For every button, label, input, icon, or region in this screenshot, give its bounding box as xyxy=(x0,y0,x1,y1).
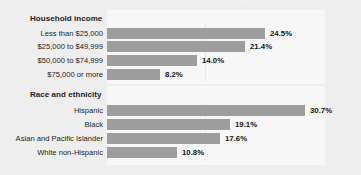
bar xyxy=(107,147,177,158)
bar xyxy=(107,105,305,116)
bar-row: $75,000 or more 8.2% xyxy=(0,69,361,80)
bar-row: Asian and Pacific Islander 17.6% xyxy=(0,133,361,144)
category-label: Less than $25,000 xyxy=(41,29,104,39)
bar xyxy=(107,119,230,130)
value-label: 17.6% xyxy=(225,134,247,144)
category-label: Black xyxy=(84,120,103,130)
bar xyxy=(107,28,265,39)
category-label: $50,000 to $74,999 xyxy=(38,56,103,66)
category-label: $25,000 to $49,999 xyxy=(38,42,103,52)
value-label: 30.7% xyxy=(310,106,332,116)
section-heading-household-income: Household income xyxy=(30,14,102,23)
value-label: 8.2% xyxy=(165,70,183,80)
chart-title: HEALTH INSURANCE COVERAGE xyxy=(0,0,361,5)
bar-row: White non-Hispanic 10.8% xyxy=(0,147,361,158)
bar xyxy=(107,55,197,66)
bar-row: Hispanic 30.7% xyxy=(0,105,361,116)
value-label: 24.5% xyxy=(270,29,292,39)
bar-chart: HEALTH INSURANCE COVERAGE Household inco… xyxy=(0,0,361,175)
bar-row: Black 19.1% xyxy=(0,119,361,130)
section-heading-race-ethnicity: Race and ethnicity xyxy=(30,90,102,99)
bar-row: $25,000 to $49,999 21.4% xyxy=(0,41,361,52)
bar-row: $50,000 to $74,999 14.0% xyxy=(0,55,361,66)
bar xyxy=(107,41,245,52)
category-label: White non-Hispanic xyxy=(37,148,103,158)
value-label: 19.1% xyxy=(235,120,257,130)
category-label: Asian and Pacific Islander xyxy=(16,134,103,144)
bar xyxy=(107,69,160,80)
bar-row: Less than $25,000 24.5% xyxy=(0,28,361,39)
value-label: 14.0% xyxy=(202,56,224,66)
value-label: 21.4% xyxy=(250,42,272,52)
category-label: $75,000 or more xyxy=(47,70,103,80)
bar xyxy=(107,133,220,144)
category-label: Hispanic xyxy=(74,106,103,116)
value-label: 10.8% xyxy=(182,148,204,158)
